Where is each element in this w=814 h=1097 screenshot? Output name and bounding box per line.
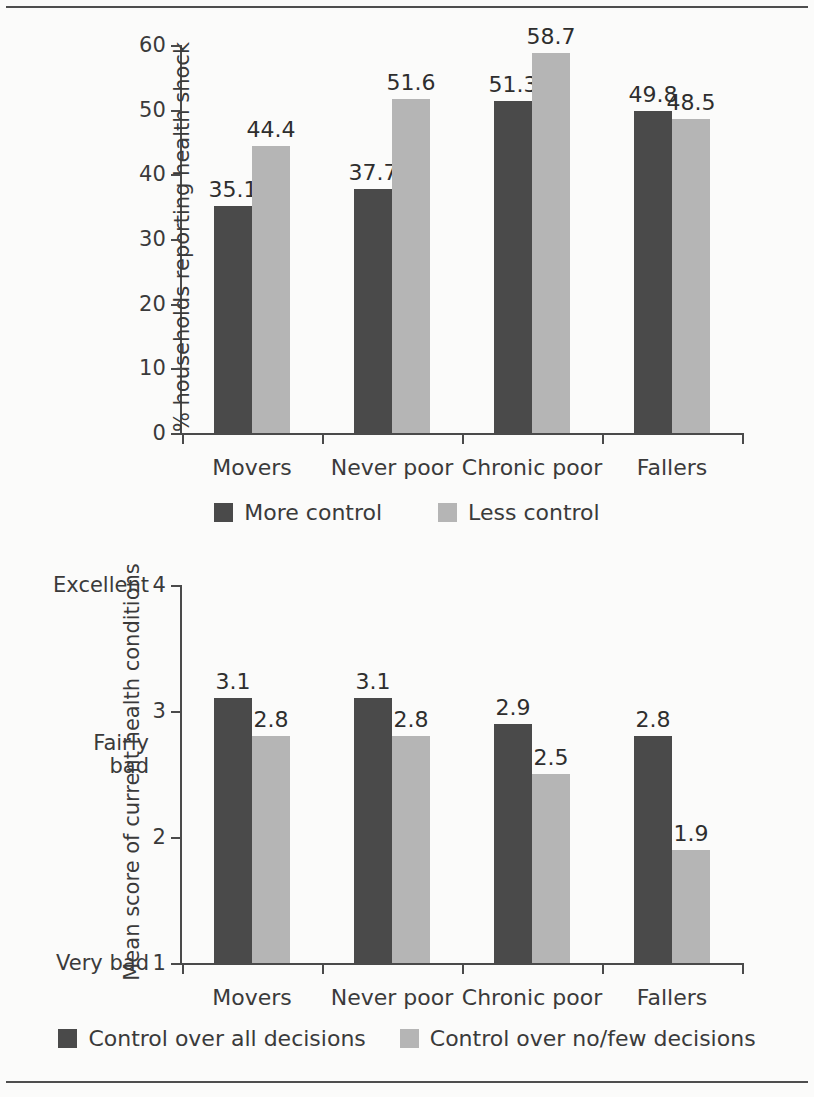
x-tick-1 — [322, 963, 324, 974]
bar: 2.8 — [392, 736, 430, 963]
plot-area-health-shock: % households reporting health shock 60 5… — [180, 45, 742, 435]
y-tick-label-1: 1 — [152, 951, 166, 975]
x-tick-4 — [742, 963, 744, 974]
bar: 37.7 — [354, 189, 392, 433]
x-tick-2 — [462, 433, 464, 444]
bar: 49.8 — [634, 111, 672, 433]
bar: 44.4 — [252, 146, 290, 433]
x-label-chronic-poor: Chronic poor — [462, 985, 602, 1010]
y-tick-label-2: 2 — [152, 825, 166, 849]
bar: 3.1 — [214, 698, 252, 963]
bar-value-label: 3.1 — [216, 669, 251, 694]
bar-value-label: 51.3 — [489, 72, 538, 97]
x-tick-3 — [602, 433, 604, 444]
legend-item-more-control[interactable]: More control — [214, 500, 382, 525]
x-tick-2 — [462, 963, 464, 974]
chart-health-condition-score: Mean score of current health conditions … — [0, 556, 814, 1074]
y-tick-label-4: 4 — [152, 573, 166, 597]
x-label-movers: Movers — [212, 985, 292, 1010]
bar: 48.5 — [672, 119, 710, 433]
bar-value-label: 58.7 — [526, 24, 575, 49]
y-tick-label-20: 20 — [139, 292, 166, 316]
legend-label-control-all-decisions: Control over all decisions — [88, 1026, 365, 1051]
y-tick-20 — [171, 304, 182, 306]
legend-label-control-no-few-decisions: Control over no/few decisions — [430, 1026, 756, 1051]
y-tick-label-50: 50 — [139, 98, 166, 122]
bar-value-label: 2.8 — [253, 707, 288, 732]
y-tick-label-30: 30 — [139, 227, 166, 251]
legend-health-shock: More control Less control — [0, 500, 814, 525]
bar: 2.8 — [634, 736, 672, 963]
y-tick-40 — [171, 174, 182, 176]
bar-value-label: 1.9 — [673, 821, 708, 846]
y-tick-label-60: 60 — [139, 33, 166, 57]
y-anchor-very-bad: Very bad — [56, 952, 149, 975]
y-tick-label-3: 3 — [152, 699, 166, 723]
bar: 2.8 — [252, 736, 290, 963]
y-tick-10 — [171, 368, 182, 370]
legend-item-less-control[interactable]: Less control — [438, 500, 600, 525]
bar-value-label: 2.5 — [533, 745, 568, 770]
bar-value-label: 35.1 — [209, 177, 258, 202]
y-tick-60 — [171, 45, 182, 47]
chart-health-shock: % households reporting health shock 60 5… — [0, 14, 814, 544]
bar-value-label: 51.6 — [386, 70, 435, 95]
y-anchor-fairly-bad: Fairlybad — [93, 732, 149, 777]
x-tick-4 — [742, 433, 744, 444]
x-label-movers: Movers — [212, 455, 292, 480]
x-tick-0 — [182, 963, 184, 974]
bar-value-label: 3.1 — [356, 669, 391, 694]
legend-item-control-no-few-decisions[interactable]: Control over no/few decisions — [400, 1026, 756, 1051]
y-tick-2 — [171, 837, 182, 839]
bar-value-label: 44.4 — [246, 117, 295, 142]
legend-health-condition-score: Control over all decisions Control over … — [0, 1026, 814, 1051]
bar: 2.9 — [494, 724, 532, 963]
bar-value-label: 2.8 — [393, 707, 428, 732]
y-tick-label-0: 0 — [152, 421, 166, 445]
y-tick-label-10: 10 — [139, 356, 166, 380]
legend-item-control-all-decisions[interactable]: Control over all decisions — [58, 1026, 365, 1051]
legend-swatch-light-icon — [438, 503, 457, 522]
bar: 35.1 — [214, 206, 252, 433]
y-axis-title: % households reporting health shock — [170, 37, 194, 437]
legend-label-more-control: More control — [244, 500, 382, 525]
y-tick-label-40: 40 — [139, 162, 166, 186]
legend-swatch-dark-icon — [214, 503, 233, 522]
x-label-never-poor: Never poor — [331, 455, 454, 480]
legend-swatch-dark-icon — [58, 1029, 77, 1048]
x-label-never-poor: Never poor — [331, 985, 454, 1010]
page-rule-bottom — [6, 1081, 808, 1083]
bar: 2.5 — [532, 774, 570, 963]
bar-value-label: 2.8 — [636, 707, 671, 732]
y-tick-50 — [171, 110, 182, 112]
bar-value-label: 37.7 — [349, 160, 398, 185]
x-tick-0 — [182, 433, 184, 444]
y-tick-4 — [171, 585, 182, 587]
y-tick-0 — [171, 433, 182, 435]
plot-area-health-condition-score: Mean score of current health conditions … — [180, 585, 742, 965]
page-rule-top — [6, 6, 808, 8]
y-tick-30 — [171, 239, 182, 241]
bar: 3.1 — [354, 698, 392, 963]
x-label-chronic-poor: Chronic poor — [462, 455, 602, 480]
y-tick-1 — [171, 963, 182, 965]
x-label-fallers: Fallers — [637, 985, 707, 1010]
x-tick-1 — [322, 433, 324, 444]
y-anchor-excellent: Excellent — [53, 574, 149, 597]
y-tick-3 — [171, 711, 182, 713]
legend-swatch-light-icon — [400, 1029, 419, 1048]
bar: 51.6 — [392, 99, 430, 433]
x-tick-3 — [602, 963, 604, 974]
bar-value-label: 2.9 — [496, 695, 531, 720]
legend-label-less-control: Less control — [468, 500, 600, 525]
bar: 58.7 — [532, 53, 570, 433]
bar: 1.9 — [672, 850, 710, 963]
bar: 51.3 — [494, 101, 532, 433]
x-label-fallers: Fallers — [637, 455, 707, 480]
bar-value-label: 48.5 — [666, 90, 715, 115]
